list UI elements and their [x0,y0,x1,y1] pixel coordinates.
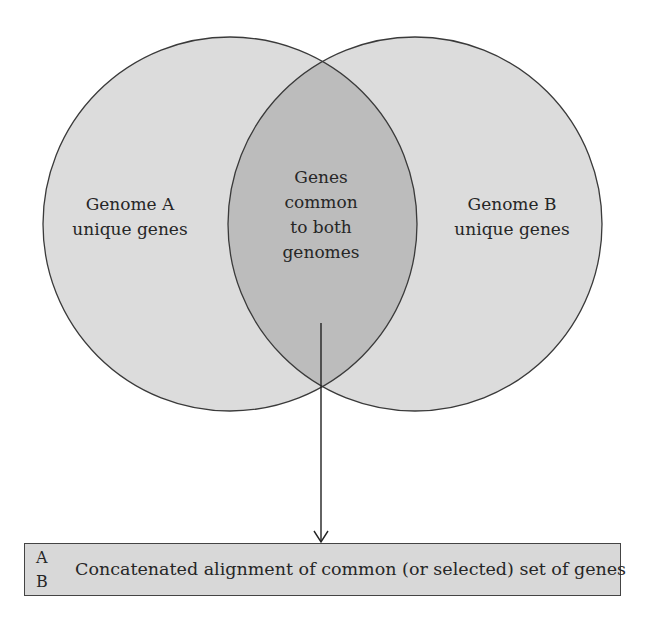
venn-diagram [0,0,655,630]
genome-b-label: Genome B unique genes [454,192,569,242]
genome-a-label: Genome A unique genes [72,192,187,242]
intersection-line-4: genomes [282,240,359,265]
genome-b-title: Genome B [454,192,569,217]
intersection-label: Genes common to both genomes [282,165,359,265]
row-labels: A B [36,546,48,594]
intersection-line-2: common [282,190,359,215]
intersection-line-3: to both [282,215,359,240]
row-label-b: B [36,570,48,594]
alignment-description: Concatenated alignment of common (or sel… [75,544,626,594]
row-label-a: A [36,546,48,570]
concatenated-alignment-box: A B Concatenated alignment of common (or… [24,543,621,596]
genome-a-subtitle: unique genes [72,217,187,242]
intersection-line-1: Genes [282,165,359,190]
genome-a-title: Genome A [72,192,187,217]
genome-b-subtitle: unique genes [454,217,569,242]
